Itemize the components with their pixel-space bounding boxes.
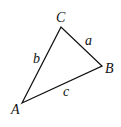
side-label-b: b: [33, 51, 40, 66]
triangle-diagram: A B C a b c: [0, 0, 121, 127]
side-label-a: a: [85, 33, 92, 48]
vertex-label-a: A: [10, 102, 20, 117]
side-label-c: c: [63, 84, 70, 99]
vertex-label-c: C: [56, 10, 66, 25]
vertex-label-b: B: [105, 61, 114, 76]
